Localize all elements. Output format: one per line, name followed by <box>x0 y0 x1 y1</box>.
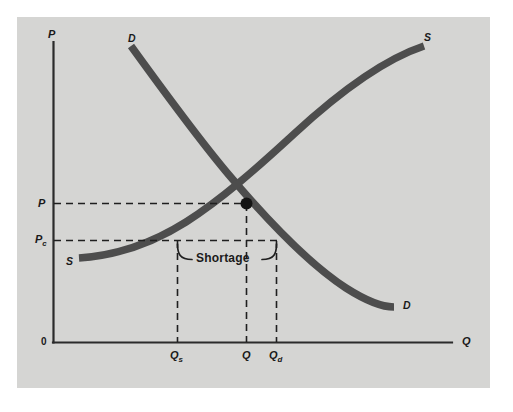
shortage-brace-right <box>262 244 277 260</box>
quantity-tick-equilibrium: Q <box>242 350 251 361</box>
supply-curve-label-left: S <box>66 256 73 267</box>
equilibrium-point-marker <box>241 198 253 210</box>
quantity-tick-supplied: Qs <box>170 350 183 363</box>
price-tick-equilibrium: P <box>38 198 45 209</box>
quantity-tick-supplied-base: Q <box>170 349 179 361</box>
shortage-brace-left <box>178 244 193 260</box>
origin-label: 0 <box>41 337 47 347</box>
price-tick-ceiling-sub: c <box>42 239 46 248</box>
quantity-tick-demanded: Qd <box>269 350 282 363</box>
supply-curve-label-right: S <box>424 32 431 43</box>
y-axis-label: P <box>48 29 55 40</box>
chart-graphics <box>0 0 513 412</box>
quantity-tick-supplied-sub: s <box>179 355 183 364</box>
demand-curve-label-bottom: D <box>403 300 411 311</box>
price-tick-ceiling: Pc <box>35 234 47 247</box>
quantity-tick-equilibrium-base: Q <box>242 349 251 361</box>
demand-curve-label-top: D <box>128 33 136 44</box>
x-axis-label: Q <box>462 336 471 347</box>
quantity-tick-demanded-base: Q <box>269 349 278 361</box>
price-tick-equilibrium-base: P <box>38 197 45 209</box>
supply-demand-figure: P Q 0 P Pc Qs Q Qd D D S S Shortage <box>0 0 513 412</box>
quantity-tick-demanded-sub: d <box>278 355 283 364</box>
shortage-annotation-label: Shortage <box>196 252 250 264</box>
supply-curve <box>79 46 424 258</box>
